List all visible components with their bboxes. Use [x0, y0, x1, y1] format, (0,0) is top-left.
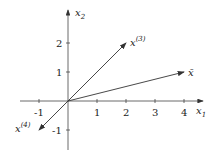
vector-xbar: [68, 72, 184, 101]
x3-label: x(3): [130, 35, 146, 48]
y-tick-label: -1: [52, 125, 62, 136]
x-tick-label: 1: [94, 107, 100, 118]
x4-label: x(4): [15, 121, 31, 134]
y-tick-label: 2: [56, 38, 62, 49]
y-axis-label: x2: [75, 7, 86, 21]
y-tick-label: 1: [56, 67, 62, 78]
x-tick-label: -1: [34, 107, 44, 118]
vector-x3: [68, 43, 126, 101]
x-tick-label: 3: [152, 107, 158, 118]
xbar-label: x̄: [188, 67, 194, 78]
x-tick-label: 4: [181, 107, 187, 118]
vector-diagram: -1 1 2 3 4 2 1 -1 x1 x2 x(3) x̄ x(4): [0, 0, 216, 158]
x-axis-label: x1: [196, 105, 206, 119]
x-tick-label: 2: [123, 107, 129, 118]
